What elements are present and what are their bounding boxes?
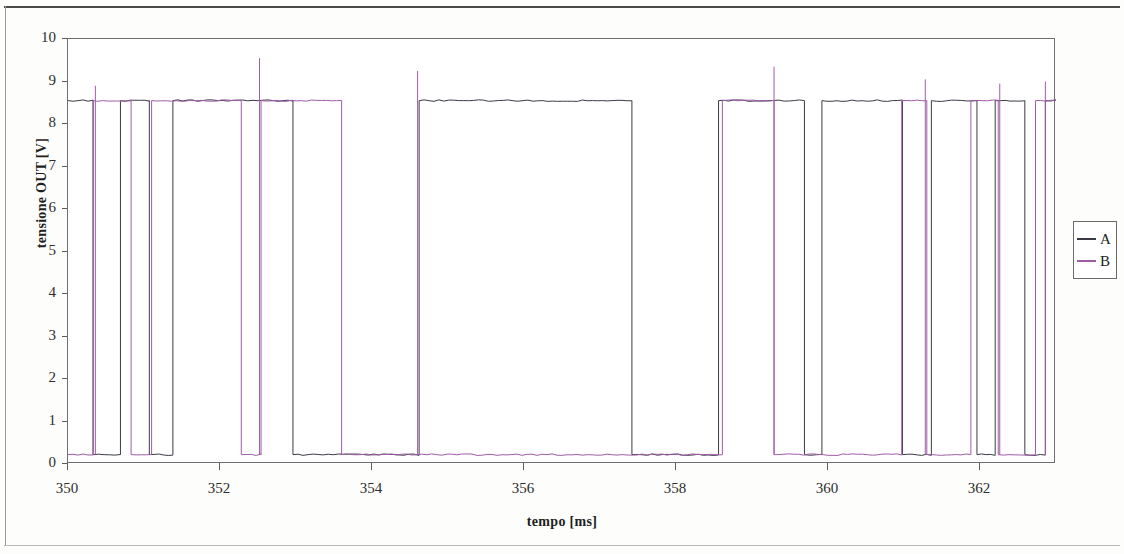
x-tick-mark (219, 463, 220, 470)
plot-area (67, 38, 1055, 463)
legend: A B (1073, 221, 1117, 279)
x-tick-mark (979, 463, 980, 470)
x-tick-label: 354 (348, 481, 394, 496)
x-tick-label: 352 (196, 481, 242, 496)
y-axis-title: tensione OUT [V] (34, 78, 50, 308)
legend-item-a[interactable]: A (1074, 228, 1116, 250)
y-tick-label: 0 (30, 455, 56, 470)
legend-label-b: B (1100, 254, 1110, 269)
chart-figure: 012345678910 350352354356358360362 tensi… (0, 0, 1124, 554)
x-tick-mark (371, 463, 372, 470)
x-tick-label: 360 (804, 481, 850, 496)
x-tick-mark (67, 463, 68, 470)
page-rule-top (4, 6, 1120, 8)
x-tick-mark (523, 463, 524, 470)
waveform-canvas (68, 39, 1056, 464)
y-tick-label: 2 (30, 370, 56, 385)
legend-label-a: A (1100, 232, 1111, 247)
x-tick-label: 358 (652, 481, 698, 496)
x-tick-label: 356 (500, 481, 546, 496)
series-line-b (68, 100, 1056, 456)
legend-swatch-a (1077, 238, 1096, 240)
x-tick-mark (675, 463, 676, 470)
x-tick-label: 362 (956, 481, 1002, 496)
x-axis-title: tempo [ms] (0, 514, 1124, 530)
series-line-a (68, 100, 1056, 456)
y-tick-label: 3 (30, 328, 56, 343)
y-tick-label: 1 (30, 413, 56, 428)
legend-item-b[interactable]: B (1074, 250, 1116, 272)
x-tick-mark (827, 463, 828, 470)
y-tick-label: 10 (30, 30, 56, 45)
page-rule-bottom (4, 545, 1120, 546)
x-tick-label: 350 (44, 481, 90, 496)
page-rule-left (5, 6, 6, 546)
legend-swatch-b (1077, 260, 1096, 262)
